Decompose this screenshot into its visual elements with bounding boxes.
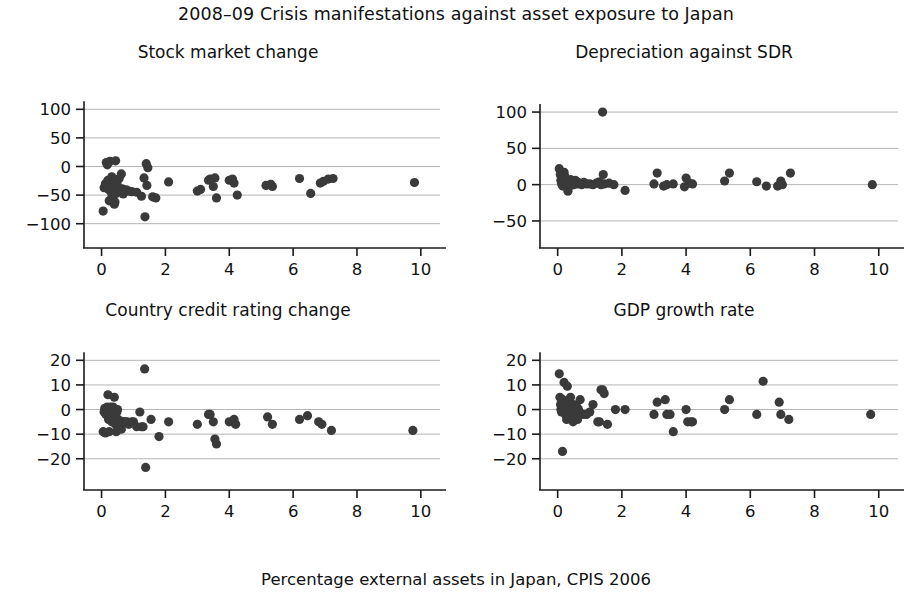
data-point — [661, 395, 670, 404]
data-point — [653, 398, 662, 407]
data-point — [408, 426, 417, 435]
data-point — [193, 420, 202, 429]
data-point — [555, 369, 564, 378]
x-tick-label: 2 — [617, 260, 628, 279]
x-tick-label: 2 — [160, 260, 171, 279]
data-point — [151, 193, 160, 202]
y-tick-label: −100 — [26, 214, 71, 233]
data-point — [665, 410, 674, 419]
data-point — [164, 417, 173, 426]
data-point — [595, 417, 604, 426]
y-tick-label: 50 — [506, 139, 527, 158]
x-tick-label: 10 — [868, 502, 889, 521]
data-point — [140, 212, 149, 221]
x-tick-label: 6 — [745, 260, 756, 279]
data-point — [688, 417, 697, 426]
data-point — [164, 177, 173, 186]
data-point — [649, 179, 658, 188]
data-point — [209, 417, 218, 426]
data-point — [113, 405, 122, 414]
x-tick-label: 10 — [868, 260, 889, 279]
data-point — [759, 377, 768, 386]
data-point — [154, 432, 163, 441]
data-point — [295, 415, 304, 424]
panel-country-credit-rating-change: Country credit rating change 20100−10−20… — [0, 300, 456, 550]
x-tick-label: 8 — [352, 260, 363, 279]
data-point — [866, 410, 875, 419]
x-tick-label: 4 — [224, 260, 235, 279]
y-tick-label: 20 — [506, 351, 527, 370]
data-point — [328, 174, 337, 183]
data-point — [558, 447, 567, 456]
data-point — [212, 193, 221, 202]
scatter-figure: 2008–09 Crisis manifestations against as… — [0, 0, 912, 614]
data-point — [653, 168, 662, 177]
data-point — [598, 107, 607, 116]
data-point — [268, 420, 277, 429]
plot-area: 100500−50−1000246810 — [0, 42, 456, 292]
panel-stock-market-change: Stock market change 100500−50−1000246810 — [0, 42, 456, 292]
data-point — [620, 186, 629, 195]
data-point — [868, 180, 877, 189]
x-axis-label: Percentage external assets in Japan, CPI… — [0, 570, 912, 589]
plot-svg — [456, 42, 912, 292]
y-tick-label: 0 — [61, 400, 72, 419]
data-point — [117, 169, 126, 178]
data-point — [720, 176, 729, 185]
data-point — [588, 400, 597, 409]
x-tick-label: 10 — [410, 260, 431, 279]
data-point — [146, 415, 155, 424]
plot-area: 20100−10−200246810 — [0, 300, 456, 550]
y-tick-label: 0 — [517, 400, 528, 419]
data-point — [603, 420, 612, 429]
data-point — [110, 393, 119, 402]
data-point — [303, 411, 312, 420]
data-point — [563, 382, 572, 391]
x-tick-label: 8 — [352, 502, 363, 521]
data-point — [110, 197, 119, 206]
data-point — [762, 182, 771, 191]
data-point — [140, 364, 149, 373]
data-point — [611, 405, 620, 414]
data-point — [137, 192, 146, 201]
y-tick-label: −20 — [492, 449, 527, 468]
data-point — [649, 410, 658, 419]
data-point — [752, 410, 761, 419]
data-point — [720, 405, 729, 414]
data-point — [143, 163, 152, 172]
y-tick-label: −10 — [36, 425, 71, 444]
data-point — [599, 170, 608, 179]
data-point — [99, 207, 108, 216]
data-point — [688, 179, 697, 188]
data-point — [210, 173, 219, 182]
data-point — [306, 189, 315, 198]
data-point — [784, 415, 793, 424]
data-point — [317, 420, 326, 429]
data-point — [576, 395, 585, 404]
y-tick-label: 0 — [61, 157, 72, 176]
data-point — [209, 182, 218, 191]
x-tick-label: 6 — [288, 260, 299, 279]
x-tick-label: 4 — [681, 260, 692, 279]
panel-gdp-growth-rate: GDP growth rate 20100−10−200246810 — [456, 300, 912, 550]
data-point — [268, 182, 277, 191]
data-point — [600, 389, 609, 398]
data-point — [775, 398, 784, 407]
data-point — [609, 180, 618, 189]
data-point — [778, 180, 787, 189]
x-tick-label: 10 — [410, 502, 431, 521]
data-point — [141, 463, 150, 472]
data-point — [111, 156, 120, 165]
data-point — [142, 181, 151, 190]
data-point — [196, 185, 205, 194]
x-tick-label: 4 — [224, 502, 235, 521]
data-point — [212, 439, 221, 448]
data-point — [229, 178, 238, 187]
y-tick-label: −50 — [492, 211, 527, 230]
panel-depreciation-against-sdr: Depreciation against SDR 100500−50024681… — [456, 42, 912, 292]
x-tick-label: 6 — [288, 502, 299, 521]
x-tick-label: 4 — [681, 502, 692, 521]
y-tick-label: −50 — [36, 186, 71, 205]
y-tick-label: 20 — [50, 351, 71, 370]
data-point — [233, 191, 242, 200]
